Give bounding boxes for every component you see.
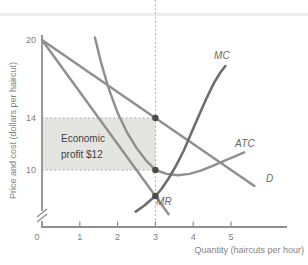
atc-curve-label: ATC: [235, 138, 255, 149]
y-tick-label: 14: [26, 113, 36, 123]
x-axis-title: Quantity (haircuts per hour): [194, 245, 304, 255]
y-tick-label: 10: [26, 165, 36, 175]
x-tick-label: 5: [228, 232, 233, 242]
mc-curve-label: MC: [214, 50, 230, 61]
x-tick-label: 4: [191, 232, 196, 242]
economic-profit-label: Economic profit $12: [61, 131, 127, 162]
y-axis-title: Price and cost (dollars per haircut): [8, 31, 21, 231]
x-tick-label: 3: [153, 232, 158, 242]
marker-dot: [152, 167, 158, 173]
monopoly-profit-figure: 012345201410 Price and cost (dollars per…: [0, 0, 308, 265]
price-cost-chart: 012345201410: [0, 0, 308, 265]
marker-dot: [152, 115, 158, 121]
d-curve-label: D: [266, 173, 273, 184]
x-tick-label: 0: [34, 232, 39, 242]
x-tick-label: 2: [115, 232, 120, 242]
y-tick-label: 20: [26, 35, 36, 45]
mr-curve-label: MR: [156, 196, 172, 207]
x-tick-label: 1: [77, 232, 82, 242]
